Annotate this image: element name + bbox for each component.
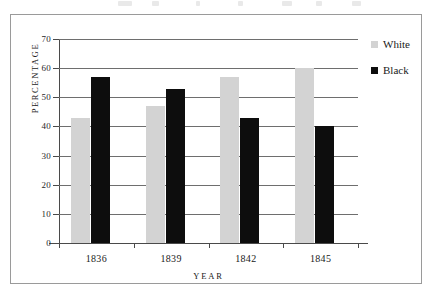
y-tick-mark (53, 185, 59, 186)
y-tick-label: 30 (15, 152, 51, 161)
chart-legend: WhiteBlack (371, 39, 423, 91)
bar-white-1836 (71, 118, 90, 243)
bar-black-1839 (166, 89, 185, 243)
y-tick-mark (53, 68, 59, 69)
legend-label: White (383, 38, 410, 50)
y-tick-mark (53, 156, 59, 157)
gridline (59, 39, 358, 40)
x-tick-label-1845: 1845 (291, 253, 351, 264)
x-axis-title: YEAR (59, 271, 358, 281)
bar-black-1845 (315, 126, 334, 243)
scan-artifact-strip (0, 0, 433, 12)
legend-entry-white[interactable]: White (371, 39, 423, 51)
y-axis-title: PERCENTAGE (30, 18, 40, 138)
black-swatch-icon (371, 67, 378, 74)
bar-white-1842 (220, 77, 239, 243)
y-tick-label-wrap: 0 (11, 239, 51, 248)
figure-frame: 706050403020100 1836183918421845 PERCENT… (10, 14, 422, 284)
plot-area (59, 39, 358, 243)
y-tick-label: 0 (15, 239, 51, 248)
x-tick-mark (134, 243, 135, 248)
y-tick-mark (53, 214, 59, 215)
x-tick-label-1842: 1842 (216, 253, 276, 264)
x-tick-mark (283, 243, 284, 248)
bar-chart: 706050403020100 1836183918421845 PERCENT… (11, 15, 423, 285)
y-tick-label-wrap: 10 (11, 210, 51, 219)
y-tick-label: 20 (15, 181, 51, 190)
x-tick-mark-origin (59, 243, 60, 248)
y-tick-mark (53, 97, 59, 98)
bar-black-1836 (91, 77, 110, 243)
bar-white-1845 (295, 68, 314, 243)
x-tick-mark (209, 243, 210, 248)
y-tick-mark (53, 126, 59, 127)
legend-entry-black[interactable]: Black (371, 65, 423, 77)
bar-black-1842 (240, 118, 259, 243)
legend-label: Black (383, 64, 409, 76)
bar-white-1839 (146, 106, 165, 243)
x-tick-label-1836: 1836 (66, 253, 126, 264)
y-tick-label-wrap: 30 (11, 152, 51, 161)
x-tick-mark (358, 243, 359, 248)
white-swatch-icon (371, 41, 378, 48)
y-tick-label-wrap: 20 (11, 181, 51, 190)
y-tick-label: 10 (15, 210, 51, 219)
x-tick-label-1839: 1839 (141, 253, 201, 264)
y-tick-mark (53, 39, 59, 40)
